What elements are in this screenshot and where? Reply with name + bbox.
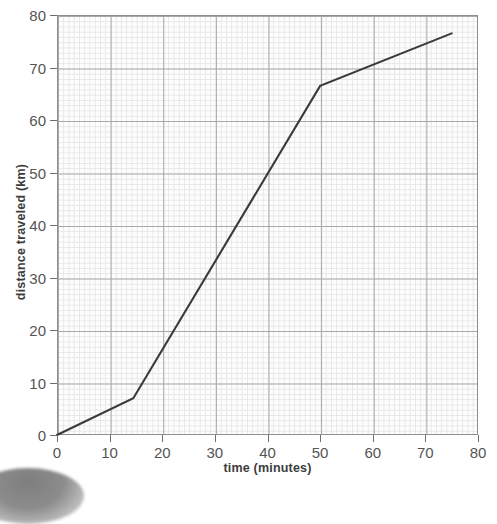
x-tick-80 bbox=[478, 435, 479, 442]
x-tick-60 bbox=[373, 435, 374, 442]
y-tick-10 bbox=[50, 383, 57, 384]
y-tick-label-30: 30 bbox=[29, 269, 46, 286]
x-axis-title: time (minutes) bbox=[57, 461, 478, 475]
y-tick-label-10: 10 bbox=[29, 374, 46, 391]
x-tick-label-60: 60 bbox=[364, 444, 381, 461]
y-tick-label-50: 50 bbox=[29, 164, 46, 181]
x-tick-label-70: 70 bbox=[417, 444, 434, 461]
x-tick-30 bbox=[215, 435, 216, 442]
y-tick-40 bbox=[50, 225, 57, 226]
x-tick-label-80: 80 bbox=[470, 444, 487, 461]
y-axis-title: distance traveled (km) bbox=[14, 132, 28, 332]
x-tick-label-40: 40 bbox=[259, 444, 276, 461]
x-tick-20 bbox=[162, 435, 163, 442]
data-series-line bbox=[57, 15, 478, 435]
x-tick-40 bbox=[268, 435, 269, 442]
y-tick-label-70: 70 bbox=[29, 59, 46, 76]
x-tick-10 bbox=[110, 435, 111, 442]
x-tick-label-0: 0 bbox=[53, 444, 61, 461]
x-tick-70 bbox=[425, 435, 426, 442]
y-tick-label-40: 40 bbox=[29, 217, 46, 234]
x-tick-label-50: 50 bbox=[312, 444, 329, 461]
x-tick-0 bbox=[57, 435, 58, 442]
y-tick-30 bbox=[50, 278, 57, 279]
x-tick-label-20: 20 bbox=[154, 444, 171, 461]
y-tick-80 bbox=[50, 15, 57, 16]
scan-artifact-blob bbox=[0, 468, 84, 524]
x-tick-label-10: 10 bbox=[101, 444, 118, 461]
y-tick-label-60: 60 bbox=[29, 112, 46, 129]
y-tick-label-20: 20 bbox=[29, 322, 46, 339]
series-polyline bbox=[57, 33, 452, 435]
x-tick-50 bbox=[320, 435, 321, 442]
y-tick-label-80: 80 bbox=[29, 7, 46, 24]
x-tick-label-30: 30 bbox=[207, 444, 224, 461]
y-tick-70 bbox=[50, 68, 57, 69]
y-tick-0 bbox=[50, 435, 57, 436]
y-tick-50 bbox=[50, 173, 57, 174]
y-tick-60 bbox=[50, 120, 57, 121]
y-tick-20 bbox=[50, 330, 57, 331]
y-tick-label-0: 0 bbox=[38, 427, 46, 444]
